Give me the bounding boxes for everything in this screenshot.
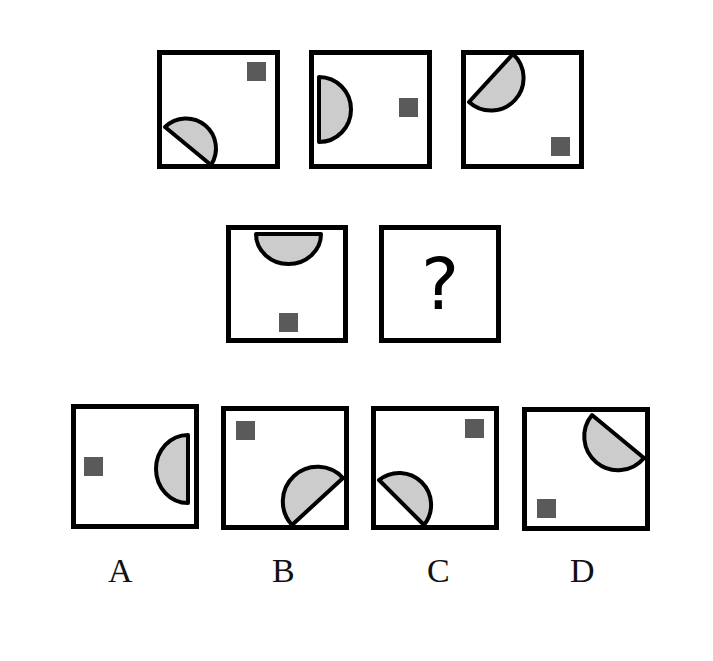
question-panel-1 bbox=[157, 50, 280, 169]
gray-square bbox=[551, 137, 570, 156]
option-c-panel[interactable] bbox=[371, 406, 499, 530]
option-b-panel[interactable] bbox=[221, 406, 349, 530]
option-a-label[interactable]: A bbox=[108, 552, 133, 590]
gray-square bbox=[465, 419, 484, 438]
semicircle bbox=[283, 467, 343, 525]
question-panel-2 bbox=[309, 50, 432, 169]
option-d-panel[interactable] bbox=[522, 407, 650, 531]
option-b-label[interactable]: B bbox=[272, 552, 295, 590]
option-a-figure bbox=[71, 404, 199, 529]
panel-3-figure bbox=[461, 50, 584, 169]
panel-1-figure bbox=[157, 50, 280, 169]
option-c-figure bbox=[371, 406, 499, 530]
semicircle bbox=[584, 415, 644, 470]
gray-square bbox=[236, 421, 255, 440]
semicircle bbox=[319, 77, 351, 142]
semicircle bbox=[165, 118, 216, 165]
gray-square bbox=[399, 98, 418, 117]
option-c-label[interactable]: C bbox=[427, 552, 450, 590]
semicircle bbox=[256, 234, 321, 264]
option-d-label[interactable]: D bbox=[570, 552, 595, 590]
question-mark: ? bbox=[384, 248, 496, 320]
gray-square bbox=[152, 461, 153, 462]
gray-square bbox=[279, 313, 298, 332]
gray-square bbox=[537, 499, 556, 518]
question-panel-unknown: ? bbox=[379, 225, 501, 343]
panel-2-figure bbox=[309, 50, 432, 169]
option-b-figure bbox=[221, 406, 349, 530]
option-a-panel[interactable] bbox=[71, 404, 199, 529]
semicircle bbox=[379, 473, 431, 525]
option-d-figure bbox=[522, 407, 650, 531]
panel-4-figure bbox=[226, 225, 348, 343]
gray-square bbox=[247, 62, 266, 81]
semicircle bbox=[156, 435, 188, 503]
question-panel-3 bbox=[461, 50, 584, 169]
semicircle bbox=[469, 54, 524, 111]
question-panel-4 bbox=[226, 225, 348, 343]
gray-square bbox=[84, 457, 103, 476]
